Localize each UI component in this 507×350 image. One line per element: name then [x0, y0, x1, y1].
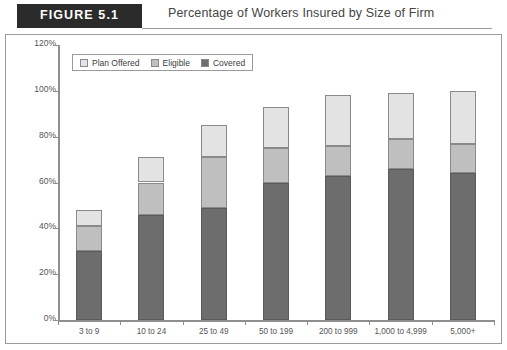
figure-header: FIGURE 5.1 Percentage of Workers Insured…	[0, 0, 507, 34]
legend-label: Eligible	[163, 58, 190, 68]
legend-swatch-covered	[201, 59, 209, 67]
figure-number-label: FIGURE 5.1	[40, 8, 119, 22]
legend-label: Plan Offered	[92, 58, 140, 68]
legend-item: Covered	[201, 58, 245, 68]
legend-item: Plan Offered	[80, 58, 140, 68]
chart-frame	[5, 34, 502, 344]
chart-legend: Plan OfferedEligibleCovered	[72, 54, 253, 71]
legend-label: Covered	[213, 58, 245, 68]
figure-banner-underline	[17, 25, 142, 28]
figure-number-banner: FIGURE 5.1	[17, 4, 142, 25]
legend-item: Eligible	[151, 58, 190, 68]
legend-swatch-plan-offered	[80, 59, 88, 67]
figure-title: Percentage of Workers Insured by Size of…	[168, 6, 434, 20]
legend-swatch-eligible	[151, 59, 159, 67]
figure-title-underline	[142, 28, 492, 29]
